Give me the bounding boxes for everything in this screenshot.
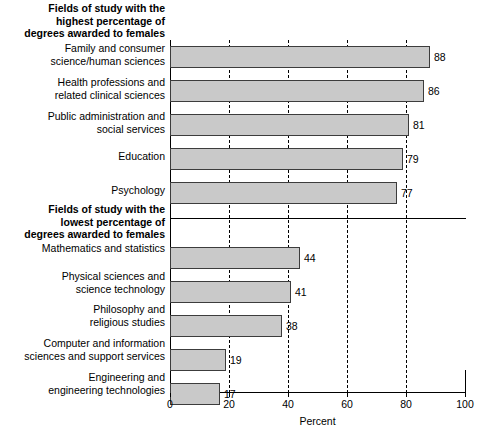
x-tick-label-100: 100 — [456, 398, 474, 410]
x-tick-60 — [347, 393, 348, 397]
bar-value-philosophy-religious-studies: 38 — [286, 315, 298, 337]
x-tick-80 — [406, 393, 407, 397]
plot-right-edge — [465, 370, 466, 393]
x-tick-label-60: 60 — [341, 398, 353, 410]
plot-area: 88 86 81 79 77 44 41 38 19 17 0 20 40 60… — [170, 40, 465, 393]
section-heading-lowest: Fields of study with the lowest percenta… — [0, 203, 165, 241]
bar-value-family-consumer-science: 88 — [434, 46, 446, 68]
category-label-family-consumer-science: Family and consumer science/human scienc… — [0, 42, 165, 67]
x-tick-label-0: 0 — [167, 398, 173, 410]
category-label-line1: Mathematics and statistics — [0, 242, 165, 255]
section-heading-lowest-line2: lowest percentage of — [0, 216, 165, 229]
category-label-line1: Philosophy and — [0, 303, 165, 316]
section-heading-highest-line1: Fields of study with the — [0, 2, 165, 15]
bar-psychology — [170, 182, 397, 204]
category-label-line2: social services — [0, 123, 165, 136]
category-label-line2: science/human sciences — [0, 55, 165, 68]
bar-public-administration — [170, 114, 409, 136]
category-label-line1: Engineering and — [0, 371, 165, 384]
x-tick-40 — [288, 393, 289, 397]
x-tick-100 — [465, 393, 466, 397]
category-label-line1: Public administration and — [0, 110, 165, 123]
bar-mathematics-statistics — [170, 247, 300, 269]
bar-value-physical-sciences: 41 — [295, 281, 307, 303]
category-label-line2: engineering technologies — [0, 384, 165, 397]
x-tick-label-20: 20 — [223, 398, 235, 410]
x-tick-label-40: 40 — [282, 398, 294, 410]
section-heading-lowest-line3: degrees awarded to females — [0, 228, 165, 241]
category-label-line1: Family and consumer — [0, 42, 165, 55]
x-tick-0 — [170, 393, 171, 397]
bar-health-professions — [170, 80, 424, 102]
category-label-education: Education — [0, 150, 165, 163]
category-label-line1: Health professions and — [0, 76, 165, 89]
bar-education — [170, 148, 403, 170]
category-label-physical-sciences: Physical sciences and science technology — [0, 270, 165, 295]
bar-philosophy-religious-studies — [170, 315, 282, 337]
chart-page: Fields of study with the highest percent… — [0, 0, 497, 437]
bar-family-consumer-science — [170, 46, 430, 68]
category-label-mathematics-statistics: Mathematics and statistics — [0, 242, 165, 255]
category-label-line2: science technology — [0, 283, 165, 296]
category-label-line1: Psychology — [0, 184, 165, 197]
bar-value-mathematics-statistics: 44 — [304, 247, 316, 269]
x-tick-20 — [229, 393, 230, 397]
bar-engineering-technologies — [170, 383, 220, 405]
category-label-line2: religious studies — [0, 316, 165, 329]
section-heading-highest-line2: highest percentage of — [0, 15, 165, 28]
category-label-line1: Education — [0, 150, 165, 163]
bar-value-psychology: 77 — [401, 182, 413, 204]
section-heading-highest: Fields of study with the highest percent… — [0, 2, 165, 40]
bar-physical-sciences — [170, 281, 291, 303]
category-label-line1: Physical sciences and — [0, 270, 165, 283]
category-label-line2: related clinical sciences — [0, 89, 165, 102]
category-label-computer-information-sciences: Computer and information sciences and su… — [0, 337, 165, 362]
category-label-engineering-technologies: Engineering and engineering technologies — [0, 371, 165, 396]
category-label-line1: Computer and information — [0, 337, 165, 350]
bar-computer-information-sciences — [170, 349, 226, 371]
category-label-psychology: Psychology — [0, 184, 165, 197]
category-label-health-professions: Health professions and related clinical … — [0, 76, 165, 101]
section-divider — [170, 218, 466, 219]
x-axis-title: Percent — [170, 415, 465, 427]
bar-value-health-professions: 86 — [428, 80, 440, 102]
section-heading-lowest-line1: Fields of study with the — [0, 203, 165, 216]
category-label-line2: sciences and support services — [0, 350, 165, 363]
section-heading-highest-line3: degrees awarded to females — [0, 27, 165, 40]
bar-value-education: 79 — [407, 148, 419, 170]
bar-value-computer-information-sciences: 19 — [230, 349, 242, 371]
category-label-philosophy-religious-studies: Philosophy and religious studies — [0, 303, 165, 328]
category-label-public-administration: Public administration and social service… — [0, 110, 165, 135]
x-tick-label-80: 80 — [400, 398, 412, 410]
bar-value-public-administration: 81 — [413, 114, 425, 136]
